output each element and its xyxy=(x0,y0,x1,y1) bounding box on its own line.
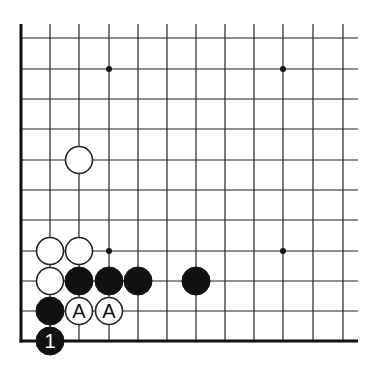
white-stone xyxy=(37,238,64,265)
black-stone-icon xyxy=(124,267,152,295)
white-stone-icon xyxy=(37,268,64,295)
black-stone xyxy=(182,267,210,295)
board-edges xyxy=(20,24,359,343)
star-point-icon xyxy=(106,66,112,72)
black-stone-icon xyxy=(182,267,210,295)
stone-label: A xyxy=(72,300,86,322)
white-stone-icon xyxy=(66,147,93,174)
white-stone xyxy=(66,238,93,265)
white-stone-icon xyxy=(37,238,64,265)
white-stone xyxy=(37,268,64,295)
go-board: AA1 xyxy=(0,0,379,371)
black-stone xyxy=(124,267,152,295)
star-point-icon xyxy=(280,248,286,254)
black-stone xyxy=(36,297,64,325)
stone-label: 1 xyxy=(44,330,55,352)
white-stone-a: A xyxy=(96,298,123,325)
black-stone-icon xyxy=(65,267,93,295)
black-stone-1: 1 xyxy=(36,327,64,355)
stone-label: A xyxy=(102,300,116,322)
black-stone xyxy=(65,267,93,295)
black-stone xyxy=(95,267,123,295)
star-point-icon xyxy=(280,66,286,72)
white-stone-icon xyxy=(66,238,93,265)
white-stone xyxy=(66,147,93,174)
black-stone-icon xyxy=(95,267,123,295)
white-stone-a: A xyxy=(66,298,93,325)
black-stone-icon xyxy=(36,297,64,325)
star-point-icon xyxy=(106,248,112,254)
